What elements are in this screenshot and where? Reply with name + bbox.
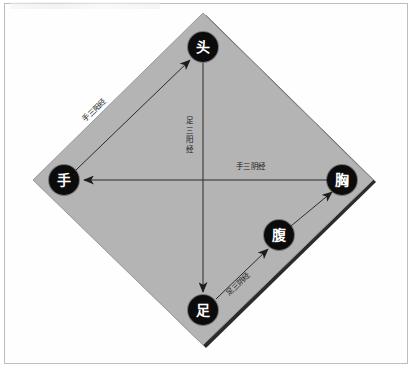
node-head[interactable]: 头 xyxy=(188,32,218,62)
node-abdomen-label: 腹 xyxy=(272,228,286,242)
label-foot-three-yang-char-2: 三 xyxy=(185,126,194,136)
node-chest[interactable]: 胸 xyxy=(327,165,357,195)
label-hand-three-yin: 手三阴经 xyxy=(236,163,266,171)
node-foot[interactable]: 足 xyxy=(188,295,218,325)
label-foot-three-yang: 足 三 阳 经 xyxy=(185,116,194,154)
label-foot-three-yang-char-3: 阳 xyxy=(185,135,194,145)
node-foot-label: 足 xyxy=(196,303,210,317)
label-foot-three-yang-char-4: 经 xyxy=(185,145,194,155)
figure-canvas: 头 手 胸 腹 足 手三阳经 足 三 阳 经 手三阴经 足三阴经 xyxy=(0,0,414,369)
label-foot-three-yang-char-1: 足 xyxy=(185,116,194,126)
diagram-stage: 头 手 胸 腹 足 手三阳经 足 三 阳 经 手三阴经 足三阴经 xyxy=(0,0,414,369)
node-head-label: 头 xyxy=(196,40,210,54)
node-hand[interactable]: 手 xyxy=(49,165,79,195)
node-chest-label: 胸 xyxy=(335,173,349,187)
node-hand-label: 手 xyxy=(57,173,71,187)
node-abdomen[interactable]: 腹 xyxy=(264,220,294,250)
